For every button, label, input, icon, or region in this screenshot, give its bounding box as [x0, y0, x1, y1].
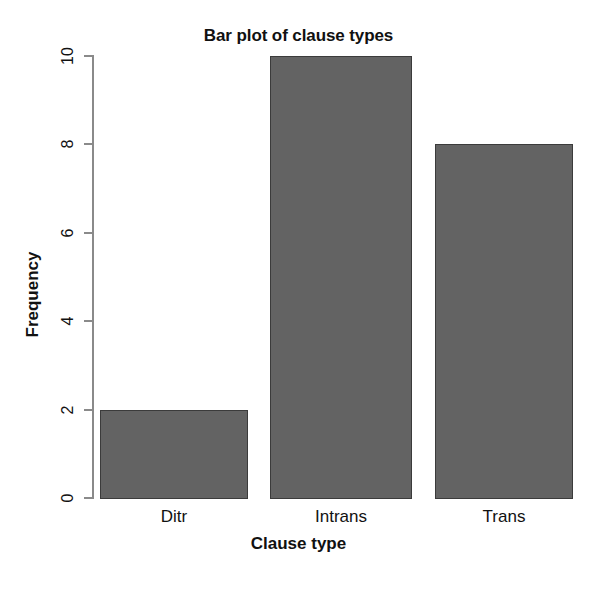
- y-axis-tick: [84, 143, 93, 145]
- y-axis-tick-label: 10: [59, 36, 77, 76]
- x-axis-tick-label-trans: Trans: [435, 505, 573, 529]
- bar-chart-figure: Bar plot of clause types Frequency Claus…: [0, 0, 597, 589]
- x-axis-tick-label-ditr: Ditr: [100, 505, 248, 529]
- y-axis-tick: [84, 497, 93, 499]
- y-axis-tick-label: 4: [59, 301, 77, 341]
- y-axis-tick: [84, 320, 93, 322]
- chart-title: Bar plot of clause types: [0, 26, 597, 46]
- y-axis-label: Frequency: [10, 0, 56, 589]
- y-axis-tick: [84, 232, 93, 234]
- y-axis-tick-label: 8: [59, 124, 77, 164]
- y-axis-tick-label: 0: [59, 478, 77, 518]
- x-axis-label: Clause type: [0, 534, 597, 554]
- x-axis-tick-label-intrans: Intrans: [270, 505, 412, 529]
- y-axis-tick-label: 2: [59, 390, 77, 430]
- bar-trans: [435, 144, 573, 499]
- y-axis-tick: [84, 409, 93, 411]
- bar-intrans: [270, 56, 412, 499]
- y-axis-tick: [84, 55, 93, 57]
- y-axis-tick-label: 6: [59, 213, 77, 253]
- y-axis-line: [92, 55, 94, 499]
- bar-ditr: [100, 410, 248, 499]
